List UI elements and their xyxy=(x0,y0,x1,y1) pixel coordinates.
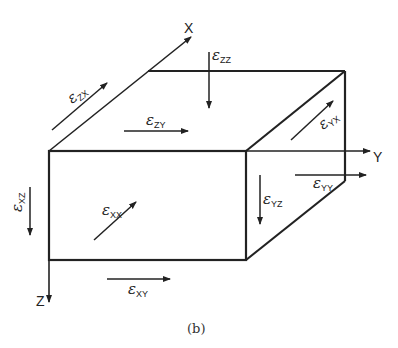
label-eps-yy: εYY xyxy=(313,174,333,193)
label-eps-zy: εZY xyxy=(146,111,166,130)
arrow-eps-xx xyxy=(94,202,136,240)
component-arrows xyxy=(30,52,366,279)
cube xyxy=(49,71,345,260)
z-axis-label: Z xyxy=(36,293,45,309)
strain-cube-diagram: X Y Z εZX εZY εZZ εY xyxy=(0,0,398,348)
label-eps-yz: εYZ xyxy=(263,190,283,209)
label-eps-xx: εXX xyxy=(102,201,122,220)
y-axis-label: Y xyxy=(373,149,383,165)
cube-top-right-edge xyxy=(246,71,345,151)
label-eps-zx: εZX xyxy=(63,81,90,108)
figure-caption: (b) xyxy=(187,321,205,336)
label-eps-xz: εXZ xyxy=(8,192,27,212)
cube-front-face xyxy=(49,151,246,260)
label-eps-zz: εZZ xyxy=(212,46,232,65)
x-axis-label: X xyxy=(184,20,194,36)
label-eps-yx: εYX xyxy=(314,107,342,134)
label-eps-xy: εXY xyxy=(128,280,148,299)
arrow-eps-zx xyxy=(52,83,107,130)
